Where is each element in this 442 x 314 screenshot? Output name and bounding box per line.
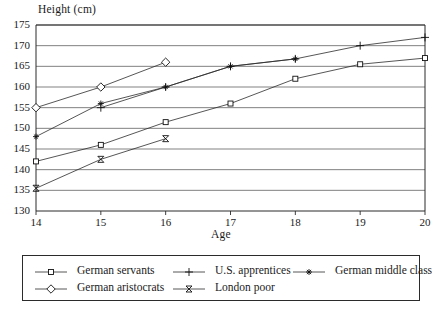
y-tick-label: 160	[4, 80, 30, 92]
x-tick-label: 16	[153, 216, 179, 228]
series-2	[97, 33, 429, 111]
legend-label: London poor	[215, 281, 275, 293]
legend-marker-hourglass-icon	[171, 282, 211, 296]
legend-label: German servants	[77, 264, 155, 276]
y-tick-label: 130	[4, 204, 30, 216]
y-tick-label: 140	[4, 163, 30, 175]
series-1	[34, 56, 428, 164]
y-tick-label: 165	[4, 59, 30, 71]
tick-marks	[36, 211, 425, 215]
y-tick-label: 145	[4, 142, 30, 154]
series-3	[33, 56, 298, 140]
height-by-age-line-chart: Height (cm) Age 130135140145150155160165…	[0, 0, 442, 314]
axis-frame	[36, 25, 425, 211]
x-tick-label: 17	[218, 216, 244, 228]
y-tick-label: 135	[4, 183, 30, 195]
y-tick-label: 150	[4, 121, 30, 133]
data-series	[32, 33, 429, 191]
legend: German servantsU.S. apprenticesGerman mi…	[22, 255, 420, 301]
x-tick-label: 18	[282, 216, 308, 228]
legend-label: German aristocrats	[77, 281, 164, 293]
y-tick-label: 155	[4, 101, 30, 113]
y-tick-label: 175	[4, 18, 30, 30]
legend-label: U.S. apprentices	[215, 264, 291, 276]
legend-marker-asterisk-icon	[291, 265, 331, 279]
x-tick-label: 19	[347, 216, 373, 228]
gridlines	[36, 25, 425, 190]
x-tick-label: 14	[23, 216, 49, 228]
y-tick-label: 170	[4, 39, 30, 51]
legend-marker-diamond-icon	[33, 282, 73, 296]
x-tick-label: 20	[412, 216, 438, 228]
legend-label: German middle class	[335, 264, 432, 276]
legend-marker-plus-icon	[171, 265, 211, 279]
x-tick-label: 15	[88, 216, 114, 228]
legend-marker-square-icon	[33, 265, 73, 279]
